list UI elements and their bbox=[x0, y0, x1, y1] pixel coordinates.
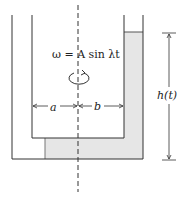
u-tube-diagram: ω = A sin λt a b h(t) bbox=[0, 0, 191, 198]
label-b: b bbox=[94, 100, 101, 113]
label-h: h(t) bbox=[157, 89, 177, 102]
angular-velocity-equation: ω = A sin λt bbox=[52, 48, 120, 61]
rotation-arrow-icon bbox=[69, 70, 89, 84]
label-a: a bbox=[50, 101, 57, 114]
